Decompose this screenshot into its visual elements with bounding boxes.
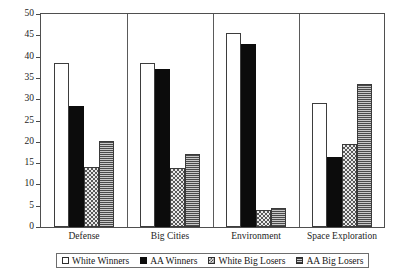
legend-swatch-icon	[140, 257, 147, 264]
y-tick-label: 30	[25, 94, 35, 104]
legend-label: AA Winners	[150, 256, 197, 266]
plot-area	[41, 14, 385, 227]
bar-defense-white-big-losers	[84, 167, 99, 227]
y-axis: 05101520253035404550	[0, 0, 36, 240]
legend-item[interactable]: White Winners	[62, 256, 129, 266]
bar-space-exploration-aa-big-losers	[357, 84, 372, 227]
y-tick-label: 15	[25, 158, 35, 168]
x-category-label: Defense	[41, 231, 127, 242]
y-tick-label: 10	[25, 179, 35, 189]
y-tick-label: 5	[29, 201, 34, 211]
group-separator	[213, 14, 214, 227]
bar-defense-aa-big-losers	[99, 141, 114, 227]
legend-swatch-icon	[208, 257, 215, 264]
bar-environment-white-winners	[226, 33, 241, 227]
bar-environment-white-big-losers	[256, 210, 271, 227]
legend-item[interactable]: AA Big Losers	[296, 256, 363, 266]
bar-big-cities-aa-winners	[155, 69, 170, 227]
legend-label: White Winners	[72, 256, 129, 266]
bar-big-cities-white-winners	[140, 63, 155, 227]
chart-legend: White WinnersAA WinnersWhite Big LosersA…	[56, 253, 369, 268]
bar-environment-aa-winners	[241, 44, 256, 227]
legend-item[interactable]: AA Winners	[140, 256, 197, 266]
bar-big-cities-white-big-losers	[170, 168, 185, 227]
legend-label: AA Big Losers	[306, 256, 363, 266]
group-separator	[299, 14, 300, 227]
x-category-label: Big Cities	[127, 231, 213, 242]
x-category-label: Environment	[213, 231, 299, 242]
legend-swatch-icon	[296, 257, 303, 264]
bar-big-cities-aa-big-losers	[185, 154, 200, 227]
legend-swatch-icon	[62, 257, 69, 264]
bar-space-exploration-white-winners	[312, 103, 327, 227]
y-tick-label: 20	[25, 137, 35, 147]
legend-label: White Big Losers	[218, 256, 285, 266]
group-separator	[127, 14, 128, 227]
y-tick-label: 35	[25, 73, 35, 83]
x-axis-category-labels: DefenseBig CitiesEnvironmentSpace Explor…	[41, 231, 385, 247]
bar-environment-aa-big-losers	[271, 208, 286, 227]
legend-item[interactable]: White Big Losers	[208, 256, 285, 266]
bar-space-exploration-aa-winners	[327, 157, 342, 227]
bar-defense-white-winners	[54, 63, 69, 227]
y-tick-label: 50	[25, 9, 35, 19]
x-category-label: Space Exploration	[299, 231, 385, 242]
y-tick-label: 45	[25, 30, 35, 40]
bar-chart: 05101520253035404550 DefenseBig CitiesEn…	[0, 0, 399, 275]
y-tick-label: 40	[25, 52, 35, 62]
bar-defense-aa-winners	[69, 106, 84, 227]
bar-space-exploration-white-big-losers	[342, 144, 357, 227]
y-tick-label: 25	[25, 116, 35, 126]
y-tick-label: 0	[29, 222, 34, 232]
